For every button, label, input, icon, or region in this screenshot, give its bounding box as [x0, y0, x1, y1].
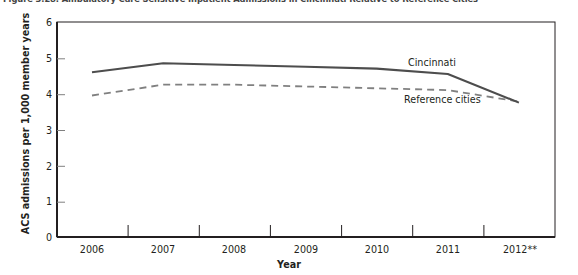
y-axis-title: ACS admissions per 1,000 member years	[20, 4, 31, 244]
line-chart: ACS admissions per 1,000 member years 0 …	[0, 0, 578, 275]
x-tick-label-2009: 2009	[276, 244, 336, 255]
y-tick-label-6: 6	[30, 17, 52, 28]
y-tick-label-4: 4	[30, 89, 52, 100]
series-label-cincinnati: Cincinnati	[408, 57, 456, 68]
x-tick-label-2010: 2010	[347, 244, 407, 255]
x-tick-label-2006: 2006	[62, 244, 122, 255]
plot-canvas	[0, 0, 578, 275]
plot-frame	[57, 22, 555, 237]
x-tick-label-2007: 2007	[133, 244, 193, 255]
x-axis-title: Year	[0, 259, 578, 270]
x-tick-label-2012: 2012**	[490, 244, 550, 255]
y-tick-label-2: 2	[30, 161, 52, 172]
series-label-reference-cities: Reference cities	[404, 94, 481, 105]
x-tick-label-2011: 2011	[418, 244, 478, 255]
y-tick-label-3: 3	[30, 125, 52, 136]
y-tick-label-5: 5	[30, 53, 52, 64]
x-tick-label-2008: 2008	[204, 244, 264, 255]
x-tick-marks	[128, 225, 484, 237]
y-tick-label-1: 1	[30, 196, 52, 207]
y-tick-marks	[57, 59, 65, 202]
y-tick-label-0: 0	[30, 232, 52, 243]
